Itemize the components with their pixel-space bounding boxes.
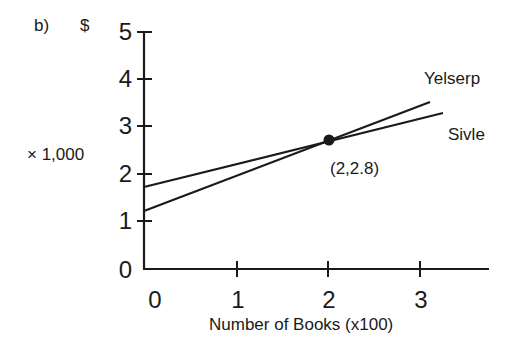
y-tick-label: 1 xyxy=(110,209,132,233)
y-tick-label: 2 xyxy=(110,162,132,186)
x-tick-label: 0 xyxy=(140,288,170,312)
x-tick-label: 2 xyxy=(314,288,344,312)
series-line-yelserp xyxy=(144,102,430,211)
x-tick-label: 3 xyxy=(406,288,436,312)
y-axis-label: $ xyxy=(80,17,89,34)
y-tick-label: 5 xyxy=(110,20,132,44)
series-line-sivle xyxy=(144,113,443,187)
intersection-point-marker xyxy=(324,135,335,146)
series-label-sivle: Sivle xyxy=(448,126,485,143)
y-axis-multiplier: × 1,000 xyxy=(27,146,84,163)
y-tick-label: 4 xyxy=(110,67,132,91)
intersection-annotation: (2,2.8) xyxy=(330,160,379,177)
x-tick-label: 1 xyxy=(223,288,253,312)
y-tick-label: 3 xyxy=(110,114,132,138)
x-axis-label: Number of Books (x100) xyxy=(209,316,393,333)
series-label-yelserp: Yelserp xyxy=(424,70,480,87)
y-tick-label: 0 xyxy=(110,258,132,282)
panel-label: b) xyxy=(34,17,49,34)
